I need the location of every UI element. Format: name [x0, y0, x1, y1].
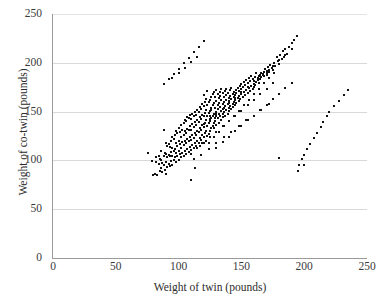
data-point	[240, 91, 242, 93]
y-axis-line	[52, 14, 53, 259]
data-point	[179, 131, 181, 133]
gridline-y-100	[53, 160, 367, 161]
data-point	[203, 94, 205, 96]
data-point	[268, 77, 270, 79]
data-point	[240, 110, 242, 112]
data-point	[203, 142, 205, 144]
data-point	[291, 42, 293, 44]
data-point	[274, 65, 276, 67]
data-point	[232, 106, 234, 108]
data-point	[253, 115, 255, 117]
data-point	[178, 68, 180, 70]
data-point	[198, 142, 200, 144]
data-point	[291, 82, 293, 84]
data-point	[247, 82, 249, 84]
data-point	[239, 98, 241, 100]
data-point	[224, 105, 226, 107]
data-point	[200, 129, 202, 131]
data-point	[194, 142, 196, 144]
data-point	[163, 164, 165, 166]
data-point	[223, 96, 225, 98]
data-point	[282, 50, 284, 52]
data-point	[245, 119, 247, 121]
data-point	[161, 171, 163, 173]
data-point	[328, 111, 330, 113]
data-point	[240, 125, 242, 127]
data-point	[250, 75, 252, 77]
data-point	[228, 102, 230, 104]
data-point	[213, 136, 215, 138]
data-point	[222, 141, 224, 143]
data-point	[190, 118, 192, 120]
data-point	[243, 104, 245, 106]
data-point	[258, 82, 260, 84]
data-point	[198, 46, 200, 48]
data-point	[213, 91, 215, 93]
x-axis-title: Weight of twin (pounds)	[53, 281, 367, 293]
data-point	[194, 121, 196, 123]
data-point	[212, 115, 214, 117]
data-point	[209, 99, 211, 101]
data-point	[284, 48, 286, 50]
data-point	[198, 111, 200, 113]
data-point	[266, 88, 268, 90]
data-point	[338, 100, 340, 102]
data-point	[200, 108, 202, 110]
data-point	[184, 150, 186, 152]
data-point	[249, 80, 251, 82]
data-point	[223, 111, 225, 113]
data-point	[278, 63, 280, 65]
data-point	[255, 72, 257, 74]
data-point	[273, 72, 275, 74]
data-point	[244, 94, 246, 96]
data-point	[252, 88, 254, 90]
data-point	[196, 56, 198, 58]
data-point	[284, 54, 286, 56]
data-point	[272, 69, 274, 71]
data-point	[230, 131, 232, 133]
data-point	[278, 93, 280, 95]
data-point	[171, 164, 173, 166]
data-point	[293, 39, 295, 41]
data-point	[309, 143, 311, 145]
data-point	[215, 142, 217, 144]
data-point	[313, 137, 315, 139]
data-point	[180, 136, 182, 138]
data-point	[185, 153, 187, 155]
data-point	[215, 131, 217, 133]
data-point	[205, 130, 207, 132]
data-point	[156, 174, 158, 176]
data-point	[263, 82, 265, 84]
data-point	[178, 140, 180, 142]
data-point	[183, 155, 185, 157]
data-point	[165, 173, 167, 175]
data-point	[213, 102, 215, 104]
data-point	[185, 132, 187, 134]
data-point	[195, 114, 197, 116]
data-point	[193, 126, 195, 128]
x-tick-label-250: 250	[351, 260, 380, 272]
data-point	[272, 65, 274, 67]
data-point	[208, 133, 210, 135]
x-tick-label-0: 0	[37, 260, 69, 272]
data-point	[168, 143, 170, 145]
data-point	[234, 99, 236, 101]
data-point	[190, 61, 192, 63]
data-point	[259, 93, 261, 95]
data-point	[180, 124, 182, 126]
data-point	[213, 127, 215, 129]
data-point	[266, 70, 268, 72]
data-point	[245, 79, 247, 81]
data-point	[175, 161, 177, 163]
data-point	[204, 101, 206, 103]
data-point	[163, 155, 165, 157]
data-point	[291, 48, 293, 50]
data-point	[228, 110, 230, 112]
data-point	[173, 138, 175, 140]
data-point	[181, 152, 183, 154]
data-point	[333, 105, 335, 107]
data-point	[160, 150, 162, 152]
data-point	[176, 145, 178, 147]
data-point	[196, 147, 198, 149]
data-point	[171, 77, 173, 79]
